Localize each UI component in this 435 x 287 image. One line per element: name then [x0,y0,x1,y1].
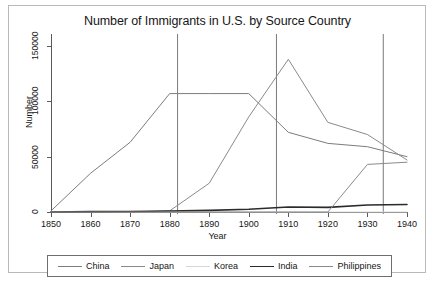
series-line-china [51,94,407,211]
legend-entry-korea[interactable]: Korea [186,262,238,271]
legend-label: China [86,262,110,271]
legend-swatch-philippines [309,266,333,267]
chart-figure: Number of Immigrants in U.S. by Source C… [0,0,435,287]
legend-entry-japan[interactable]: Japan [121,262,174,271]
legend-label: Philippines [337,262,381,271]
legend-swatch-india [250,266,274,267]
series-line-philippines [51,162,407,212]
legend-swatch-japan [121,266,145,267]
series-plot-area [0,0,435,287]
legend-entry-india[interactable]: India [250,262,298,271]
series-lines [51,59,407,212]
legend-swatch-korea [186,266,210,267]
legend-label: Korea [214,262,238,271]
legend-label: Japan [149,262,174,271]
legend-entry-china[interactable]: China [58,262,110,271]
legend-label: India [278,262,298,271]
chart-legend: ChinaJapanKoreaIndiaPhilippines [47,255,392,277]
series-line-japan [51,59,407,212]
legend-swatch-china [58,266,82,267]
series-line-india [51,204,407,212]
legend-entry-philippines[interactable]: Philippines [309,262,381,271]
